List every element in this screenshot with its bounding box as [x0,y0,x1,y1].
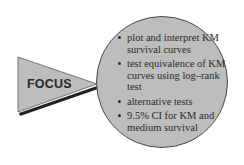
focus-bullet-list: plot and interpret KM survival curves te… [117,32,229,136]
bullet-dot-icon [118,36,121,39]
bullet-dot-icon [118,114,121,117]
bullet-text: 9.5% CI for KM and medium survival [127,110,214,133]
focus-label: FOCUS [27,77,72,91]
bullet-item: 9.5% CI for KM and medium survival [117,110,229,133]
focus-diagram: FOCUS plot and interpret KM survival cur… [0,0,244,165]
bullet-text: plot and interpret KM survival curves [127,32,219,55]
bullet-item: alternative tests [117,96,229,108]
bullet-dot-icon [118,100,121,103]
bullet-item: test equivalence of KM curves using log–… [117,58,229,93]
bullet-item: plot and interpret KM survival curves [117,32,229,55]
bullet-text: alternative tests [127,96,193,107]
bullet-dot-icon [118,62,121,65]
bullet-text: test equivalence of KM curves using log–… [127,58,225,92]
